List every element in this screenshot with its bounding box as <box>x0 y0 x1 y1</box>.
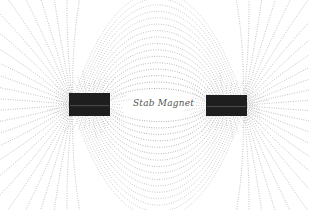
field-line <box>67 0 73 105</box>
field-line <box>56 101 67 103</box>
field-line <box>233 80 237 93</box>
field-line <box>243 22 309 106</box>
field-line <box>77 0 239 97</box>
field-line <box>243 81 309 106</box>
field-line <box>93 118 96 138</box>
field-line <box>230 118 233 138</box>
field-line <box>243 97 309 105</box>
field-line <box>0 21 73 105</box>
field-line <box>84 112 233 193</box>
field-line <box>189 109 205 114</box>
field-line <box>193 102 204 104</box>
field-line <box>220 73 223 93</box>
field-line <box>0 80 73 105</box>
field-line <box>22 105 73 211</box>
field-line <box>192 86 208 98</box>
left-magnet <box>69 93 110 116</box>
field-line <box>110 111 125 119</box>
field-line <box>233 0 244 105</box>
field-line <box>108 112 124 124</box>
field-line <box>237 79 245 94</box>
field-line <box>22 0 73 104</box>
field-line <box>0 105 73 130</box>
field-line <box>243 106 309 190</box>
field-line <box>81 11 234 97</box>
field-line <box>0 63 73 104</box>
field-line <box>0 105 73 146</box>
field-line <box>0 96 73 104</box>
field-line <box>67 105 73 211</box>
field-line <box>215 117 219 130</box>
field-line <box>75 0 241 96</box>
field-line <box>86 24 230 99</box>
right-magnet <box>206 95 247 116</box>
field-line <box>78 117 82 130</box>
field-line <box>249 100 269 103</box>
magnetic-field-figure: Stab Magnet <box>0 0 309 210</box>
field-line <box>88 111 228 180</box>
figure-caption: Stab Magnet <box>133 98 194 108</box>
field-line <box>90 37 226 100</box>
field-line <box>0 105 73 201</box>
field-line <box>75 114 241 210</box>
field-line <box>55 96 68 100</box>
field-line <box>243 106 249 211</box>
field-line <box>243 106 309 114</box>
field-line <box>0 9 73 105</box>
field-line <box>243 106 309 131</box>
field-line <box>96 117 101 133</box>
field-line <box>97 56 219 102</box>
field-line <box>99 108 217 148</box>
field-line <box>77 75 82 91</box>
field-line <box>0 48 73 104</box>
field-line <box>111 95 127 100</box>
field-line <box>0 105 73 161</box>
field-line <box>243 106 294 211</box>
field-line <box>243 0 294 105</box>
field-line <box>96 78 100 91</box>
field-line <box>243 0 249 106</box>
field-line <box>233 106 244 211</box>
field-line <box>112 99 132 102</box>
field-line <box>112 107 123 109</box>
field-line <box>245 113 261 125</box>
field-line <box>209 117 217 132</box>
field-line <box>0 105 73 113</box>
field-line <box>230 82 232 93</box>
field-line <box>84 18 233 99</box>
field-line <box>55 85 71 97</box>
field-line <box>100 77 108 92</box>
field-line <box>97 108 219 154</box>
field-line <box>233 117 238 133</box>
field-line <box>0 105 73 189</box>
field-line <box>92 43 223 100</box>
field-line <box>77 114 239 211</box>
